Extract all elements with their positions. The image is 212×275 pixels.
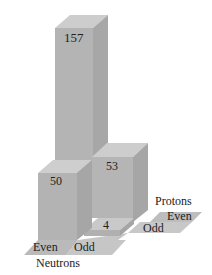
protons-odd-label: Odd xyxy=(143,221,164,235)
bar-53: 53 xyxy=(92,143,148,222)
protons-even-label: Even xyxy=(167,209,192,223)
bar-157: 157 xyxy=(55,15,108,173)
bar-50-side xyxy=(77,160,92,240)
bar-157-front xyxy=(55,28,93,173)
bar-50-value: 50 xyxy=(50,174,62,188)
neutrons-even-label: Even xyxy=(33,240,58,254)
bar-4-front xyxy=(84,230,120,236)
neutrons-odd-label: Odd xyxy=(74,240,95,254)
neutrons-axis-label: Neutrons xyxy=(36,256,80,270)
bar-3d-chart: 157 4 53 50 Protons Even Odd Even Odd Ne… xyxy=(0,0,212,275)
bar-157-value: 157 xyxy=(64,30,84,45)
protons-axis-label: Protons xyxy=(155,194,192,208)
bar-53-value: 53 xyxy=(106,159,118,173)
bar-4-value: 4 xyxy=(103,218,109,232)
bar-50: 50 xyxy=(38,160,92,240)
